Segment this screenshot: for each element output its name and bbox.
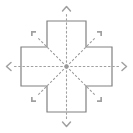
cross-expansion-diagram — [0, 0, 133, 133]
diagram-canvas — [0, 0, 133, 133]
center-node-group — [64, 64, 68, 68]
center-dot — [64, 64, 68, 68]
